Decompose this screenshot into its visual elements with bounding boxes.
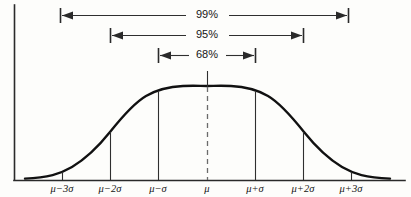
axis-tick-label-plus-2-sigma: μ+2σ bbox=[291, 183, 316, 194]
axis-tick-label-plus-1-sigma: μ+σ bbox=[245, 183, 264, 194]
axis-tick-labels: μ−3σ μ−2σ μ−σ μ μ+σ μ+2σ μ+3σ bbox=[50, 183, 364, 194]
axis-tick-label-minus-3-sigma: μ−3σ bbox=[50, 183, 75, 194]
bracket-68-left-arrow-icon bbox=[160, 52, 171, 60]
bracket-99: 99% bbox=[61, 8, 349, 23]
bracket-95-right-arrow-icon bbox=[291, 32, 302, 40]
normal-distribution-figure: μ−3σ μ−2σ μ−σ μ μ+σ μ+2σ μ+3σ 99% 95 bbox=[0, 0, 411, 197]
bracket-95-left-arrow-icon bbox=[112, 32, 123, 40]
bracket-68-label: 68% bbox=[196, 48, 218, 60]
bracket-68: 68% bbox=[159, 48, 256, 63]
axis-tick-label-minus-1-sigma: μ−σ bbox=[148, 183, 167, 194]
axis-tick-label-mu: μ bbox=[203, 183, 209, 194]
axis-tick-label-plus-3-sigma: μ+3σ bbox=[339, 183, 364, 194]
bracket-95-label: 95% bbox=[196, 28, 218, 40]
bracket-68-right-arrow-icon bbox=[243, 52, 254, 60]
bracket-95: 95% bbox=[111, 28, 304, 43]
bracket-99-label: 99% bbox=[196, 8, 218, 20]
bracket-99-right-arrow-icon bbox=[336, 12, 347, 20]
axis-tick-label-minus-2-sigma: μ−2σ bbox=[98, 183, 123, 194]
bracket-99-left-arrow-icon bbox=[62, 12, 73, 20]
